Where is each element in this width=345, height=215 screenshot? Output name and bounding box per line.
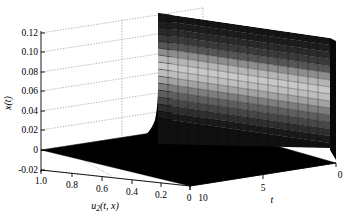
- x-tick-label-1.0: 1.0: [35, 176, 47, 186]
- x-tick-label-0.8: 0.8: [66, 180, 78, 190]
- x-axis-title-rest: (t, x): [100, 200, 120, 212]
- surface-left-fold: [41, 13, 172, 151]
- z-tick-label-0.02: 0.02: [21, 125, 38, 135]
- z-tick-label-0.12: 0.12: [21, 28, 38, 38]
- surface-right-endcap: [330, 38, 336, 160]
- z-tick-label-0.10: 0.10: [21, 47, 38, 57]
- surface-wall: [158, 13, 330, 152]
- surface-plot-canvas: 0.12 0.10 0.08 0.06 0.04 0.02 0 -0.02 1.…: [0, 0, 345, 215]
- t-tick-label-0: 0: [338, 170, 343, 180]
- z-axis-title-rest: (t): [2, 95, 14, 105]
- x-tick-label-0.2: 0.2: [155, 190, 167, 200]
- t-tick-label-5: 5: [261, 183, 266, 193]
- t-tick-label-10: 10: [198, 193, 208, 203]
- svg-text:u2(t, x): u2(t, x): [91, 200, 119, 213]
- z-axis-tick-labels: 0.12 0.10 0.08 0.06 0.04 0.02 0 -0.02: [18, 28, 38, 175]
- surface-rise-skirt: [41, 13, 172, 151]
- x-tick-label-0.4: 0.4: [126, 187, 138, 197]
- z-tick-label-0.08: 0.08: [21, 67, 38, 77]
- svg-text:x(t): x(t): [2, 95, 14, 111]
- z-tick-label-0.06: 0.06: [21, 86, 38, 96]
- z-tick-label-0: 0: [33, 145, 38, 155]
- z-axis-title: x(t): [2, 95, 14, 111]
- z-tick-label--0.02: -0.02: [18, 165, 38, 175]
- z-tick-label-0.04: 0.04: [21, 106, 38, 116]
- t-axis-title: t: [271, 194, 274, 205]
- x-tick-label-0: 0: [187, 193, 192, 203]
- x-tick-label-0.6: 0.6: [96, 184, 108, 194]
- figure-container: 0.12 0.10 0.08 0.06 0.04 0.02 0 -0.02 1.…: [0, 0, 345, 215]
- t-axis-title-var: t: [271, 194, 274, 205]
- x-axis-title: u2(t, x): [91, 200, 119, 213]
